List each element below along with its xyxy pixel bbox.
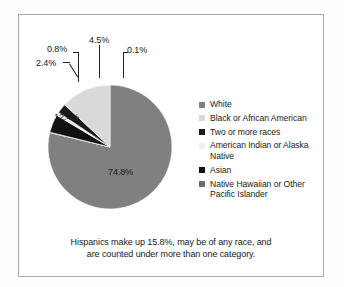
legend-swatch-icon xyxy=(199,115,205,121)
slice-label-white: 74.8% xyxy=(108,167,133,177)
legend-item-label: Native Hawaiian or Other Pacific Islande… xyxy=(210,179,323,200)
legend-item[interactable]: White xyxy=(199,99,323,110)
slice-label-asian: 4.5% xyxy=(89,35,109,45)
leader-line-american-indian xyxy=(78,52,79,82)
legend-swatch-icon xyxy=(199,167,205,173)
slice-label-black: 12.4% xyxy=(54,112,79,122)
legend-item-label: White xyxy=(210,99,232,110)
legend-item-label: American Indian or Alaska Native xyxy=(210,140,323,161)
legend-swatch-icon xyxy=(199,129,205,135)
slice-label-american-indian: 0.8% xyxy=(47,44,67,54)
legend-item[interactable]: Asian xyxy=(199,165,323,176)
legend-item-label: Two or more races xyxy=(210,127,280,138)
leader-line-two-or-more-elbow xyxy=(63,62,70,63)
leader-line-american-indian-elbow xyxy=(73,52,79,53)
figure-caption: Hispanics make up 15.8%, may be of any r… xyxy=(30,236,312,260)
legend-item[interactable]: Native Hawaiian or Other Pacific Islande… xyxy=(199,179,323,200)
leader-line-native-hawaiian xyxy=(123,52,124,78)
caption-line-2: are counted under more than one category… xyxy=(30,248,312,260)
legend-item-label: Black or African American xyxy=(210,113,307,124)
legend-item-label: Asian xyxy=(210,165,231,176)
legend-swatch-icon xyxy=(199,143,205,149)
figure-container: 74.8% 12.4% 2.4% 0.8% 4.5% 0.1% WhiteBla… xyxy=(0,0,344,287)
legend-swatch-icon xyxy=(199,181,205,187)
caption-line-1: Hispanics make up 15.8%, may be of any r… xyxy=(30,236,312,248)
pie-chart-svg xyxy=(30,30,210,230)
legend-item[interactable]: Two or more races xyxy=(199,127,323,138)
legend-item[interactable]: American Indian or Alaska Native xyxy=(199,140,323,161)
legend-item[interactable]: Black or African American xyxy=(199,113,323,124)
slice-label-native-hawaiian: 0.1% xyxy=(127,45,147,55)
chart-legend: WhiteBlack or African AmericanTwo or mor… xyxy=(199,99,323,203)
leader-line-asian xyxy=(99,45,100,78)
slice-label-two-or-more: 2.4% xyxy=(36,58,56,68)
legend-swatch-icon xyxy=(199,102,205,108)
